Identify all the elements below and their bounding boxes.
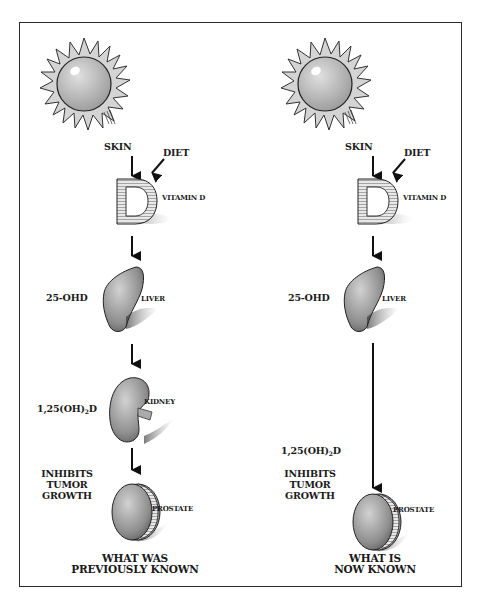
prostate-label: PROSTATE xyxy=(152,504,193,513)
effect-label: INHIBITS TUMOR GROWTH xyxy=(37,468,97,501)
diet-label: DIET xyxy=(404,147,430,158)
liver-label: LIVER xyxy=(141,294,165,303)
sun-icon xyxy=(40,38,130,130)
prostate-label: PROSTATE xyxy=(393,505,434,514)
effect-label: INHIBITS TUMOR GROWTH xyxy=(280,468,340,501)
kidney-metabolite-label: 1,25(OH)2D xyxy=(37,403,97,415)
skin-label: SKIN xyxy=(345,141,372,152)
left-caption: WHAT WAS PREVIOUSLY KNOWN xyxy=(70,553,200,575)
left-panel-art xyxy=(40,38,174,541)
liver-metabolite-label: 25-OHD xyxy=(288,292,329,303)
vitamin-d-label: VITAMIN D xyxy=(403,193,446,202)
diet-arrow xyxy=(393,159,405,173)
liver-label: LIVER xyxy=(382,294,406,303)
prostate-metabolite-label: 1,25(OH)2D xyxy=(281,445,341,457)
skin-label: SKIN xyxy=(104,141,131,152)
kidney-icon xyxy=(110,378,174,444)
right-caption: WHAT IS NOW KNOWN xyxy=(320,553,430,575)
prostate-icon xyxy=(353,494,409,551)
diet-label: DIET xyxy=(163,147,189,158)
diet-arrow xyxy=(152,159,164,173)
liver-metabolite-label: 25-OHD xyxy=(46,292,87,303)
vitamin-d-label: VITAMIN D xyxy=(162,193,205,202)
sun-icon xyxy=(281,38,371,130)
kidney-label: KIDNEY xyxy=(144,397,175,406)
